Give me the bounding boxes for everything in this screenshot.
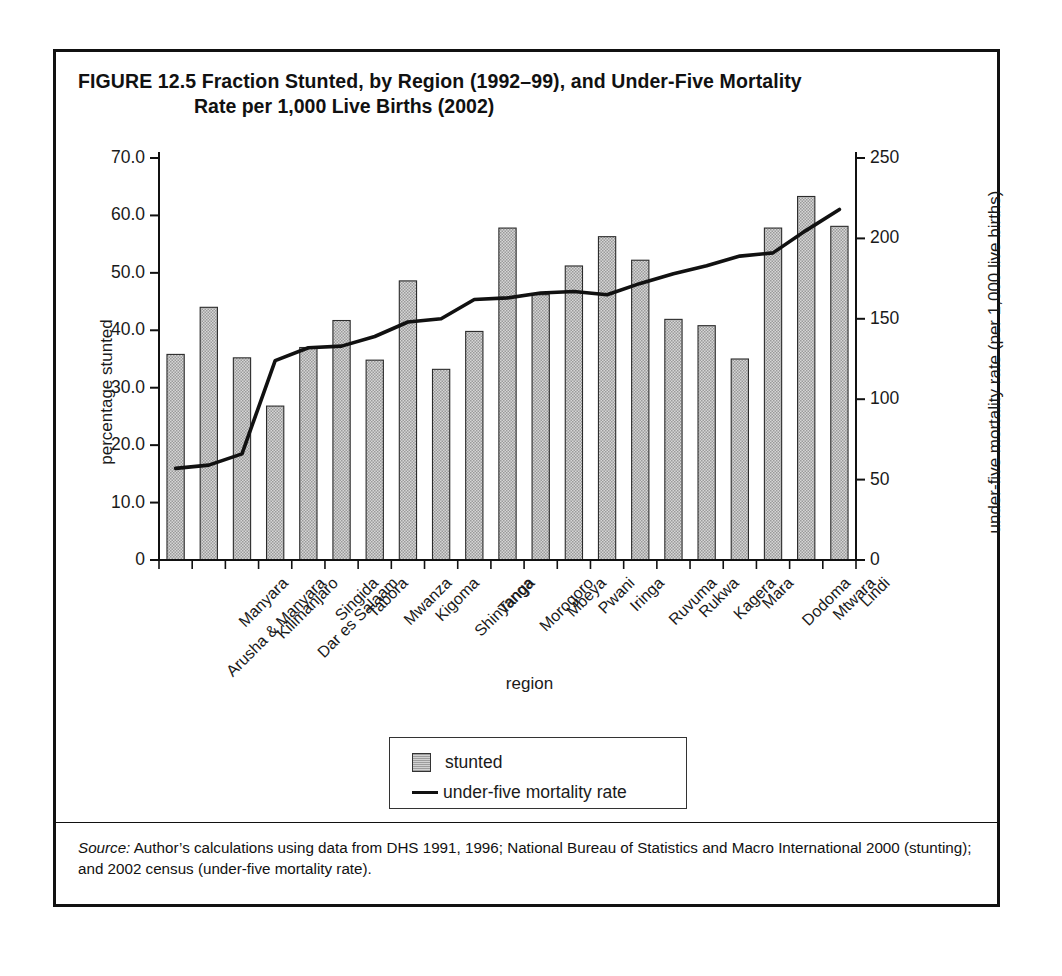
y-axis-right-tick-label: 100 <box>870 388 930 409</box>
bar <box>233 358 250 560</box>
legend-line-swatch-icon <box>412 791 438 794</box>
bar <box>300 348 317 560</box>
legend-item-mortality: under-five mortality rate <box>412 779 686 805</box>
source-text: Author’s calculations using data from DH… <box>78 839 972 877</box>
legend-bar-swatch-icon <box>412 753 431 772</box>
y-axis-right-tick-label: 150 <box>870 308 930 329</box>
y-axis-left-tick-label: 20.0 <box>73 434 145 455</box>
bar <box>167 354 184 560</box>
x-axis-title: region <box>56 674 1003 694</box>
y-axis-right-tick-label: 200 <box>870 227 930 248</box>
y-axis-right-tick-label: 0 <box>870 549 930 570</box>
bar <box>698 326 715 560</box>
legend-label-mortality: under-five mortality rate <box>443 782 627 803</box>
y-axis-left-tick-label: 0 <box>73 549 145 570</box>
bar <box>831 226 848 560</box>
y-axis-left-tick-label: 30.0 <box>73 377 145 398</box>
bar <box>798 196 815 560</box>
legend-item-stunted: stunted <box>412 749 686 775</box>
bar <box>565 266 582 560</box>
bar <box>466 331 483 560</box>
y-axis-left-tick-label: 50.0 <box>73 262 145 283</box>
source-note: Source: Author’s calculations using data… <box>78 837 978 879</box>
bar <box>598 237 615 560</box>
bar <box>499 228 516 560</box>
chart-legend: stunted under-five mortality rate <box>389 737 687 809</box>
y-axis-left-tick-label: 10.0 <box>73 492 145 513</box>
y-axis-left-tick-label: 70.0 <box>73 147 145 168</box>
bar <box>267 406 284 560</box>
bar <box>665 319 682 560</box>
bar <box>333 321 350 560</box>
bar <box>366 360 383 560</box>
bar <box>532 295 549 560</box>
figure-frame: FIGURE 12.5 Fraction Stunted, by Region … <box>53 49 1000 907</box>
source-label: Source: <box>78 839 130 856</box>
bar <box>731 359 748 560</box>
y-axis-right-tick-label: 50 <box>870 469 930 490</box>
y-axis-right-title: under-five mortality rate (per 1,000 liv… <box>985 191 1005 534</box>
y-axis-right-tick-label: 250 <box>870 147 930 168</box>
y-axis-left-tick-label: 60.0 <box>73 204 145 225</box>
legend-label-stunted: stunted <box>445 752 502 773</box>
bar <box>632 260 649 560</box>
bar <box>764 228 781 560</box>
bar <box>432 369 449 560</box>
source-divider <box>56 822 997 823</box>
bar <box>200 307 217 560</box>
y-axis-left-tick-label: 40.0 <box>73 319 145 340</box>
